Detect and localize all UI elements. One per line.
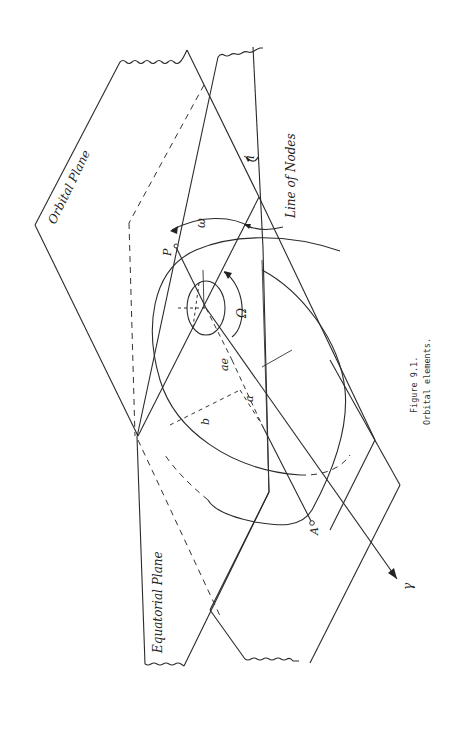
vernal-equinox-label: γ	[401, 582, 415, 590]
orbital-elements-figure: Orbital Plane Equatorial Plane Line of N…	[0, 0, 458, 742]
equatorial-plane-torn-edge-top	[218, 48, 263, 57]
orbital-plane-torn-edge	[120, 50, 187, 64]
semi-minor-axis-label: b	[199, 418, 212, 425]
line-of-nodes-label: Line of Nodes	[284, 133, 298, 219]
node-arc	[224, 271, 242, 337]
apoapsis-label: A	[308, 527, 321, 536]
equatorial-plane-torn-edge-bottom	[145, 663, 184, 666]
line-of-nodes-arc	[244, 224, 283, 229]
hidden-edges	[129, 85, 221, 618]
arrowhead-icon	[388, 568, 397, 579]
semi-major-axis-label: a	[243, 395, 256, 402]
label-group: Orbital Plane Equatorial Plane Line of N…	[45, 133, 415, 654]
inclination-label: i	[243, 155, 257, 159]
periapsis-marker	[174, 244, 178, 248]
caption-title: Orbital elements.	[422, 338, 432, 425]
equatorial-plane-label: Equatorial Plane	[151, 551, 165, 654]
apoapsis-marker	[310, 521, 315, 526]
figure-caption: Figure 9.1. Orbital elements.	[409, 338, 432, 425]
apse-line	[174, 244, 314, 525]
periapsis-label: P	[161, 248, 174, 257]
orbit-ellipse	[152, 238, 350, 525]
omega-label: ω	[194, 218, 208, 228]
focal-distance-label: ae	[218, 357, 231, 371]
caption-number: Figure 9.1.	[409, 357, 419, 413]
orbital-plane	[35, 50, 375, 530]
vernal-equinox-axis	[206, 308, 397, 579]
equatorial-plane	[137, 47, 400, 666]
node-longitude-label: Ω	[235, 308, 249, 319]
